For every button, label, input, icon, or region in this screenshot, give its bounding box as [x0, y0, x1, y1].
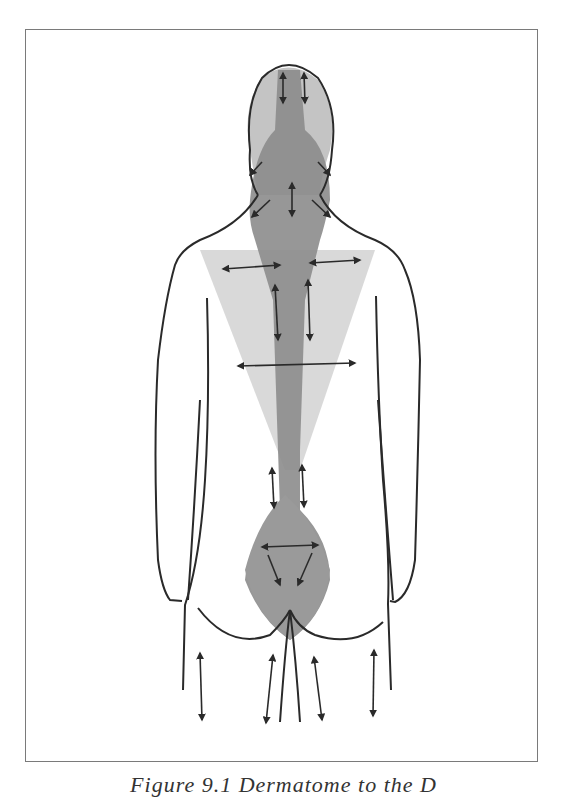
figure-caption: Figure 9.1 Dermatome to the D: [0, 774, 567, 796]
sacral-shading: [245, 495, 330, 640]
